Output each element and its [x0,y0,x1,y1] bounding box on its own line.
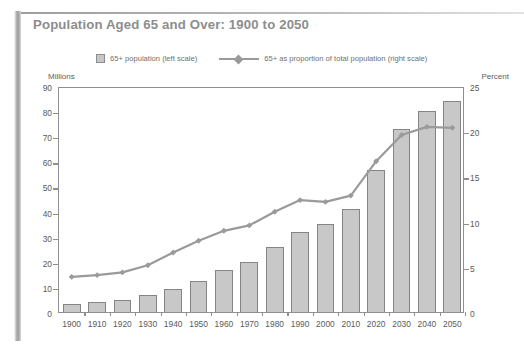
y2-axis-tick-label: 15 [470,174,479,182]
line-marker-1920 [119,269,125,275]
x-axis-tick-label: 1960 [215,319,234,329]
chart-page: Population Aged 65 and Over: 1900 to 205… [0,0,524,347]
page-gutter-shadow [14,11,21,341]
y2-axis-tick-label: 25 [470,84,479,92]
line-path [72,127,453,277]
legend-bar-label: 65+ population (left scale) [110,54,197,63]
y-axis-tick-label: 70 [43,134,52,142]
x-axis-tick-label: 1940 [164,319,183,329]
y-axis-tick-label: 90 [43,84,52,92]
plot-inner: 0102030405060708090051015202519001910192… [59,88,463,312]
x-axis-tick-label: 2050 [443,319,462,329]
legend-line-label: 65+ as proportion of total population (r… [264,54,427,63]
top-rule-divider [21,12,524,14]
x-axis-tick-label: 1910 [88,319,107,329]
line-marker-1910 [94,272,100,278]
x-axis-tick-label: 2020 [367,319,386,329]
y-axis-tick-label: 80 [43,109,52,117]
legend-bar-swatch-icon [96,54,105,63]
right-axis-caption: Percent [481,72,509,81]
line-marker-1900 [69,274,75,280]
legend-item-bar: 65+ population (left scale) [96,54,197,63]
y2-axis-tick-label: 10 [470,219,479,227]
x-axis-tick-label: 1950 [189,319,208,329]
line-marker-2000 [322,199,328,205]
line-marker-2050 [449,125,455,131]
y2-axis-tick-label: 0 [470,310,475,318]
y-axis-tick-label: 10 [43,285,52,293]
x-axis-tick-label: 2000 [316,319,335,329]
y-axis-tick-label: 20 [43,260,52,268]
x-axis-tick-label: 1980 [265,319,284,329]
x-axis-tick-label: 1920 [113,319,132,329]
page-title: Population Aged 65 and Over: 1900 to 205… [33,17,309,32]
legend-line-marker-icon [219,54,259,63]
line-marker-2040 [424,124,430,130]
x-axis-tick-label: 1970 [240,319,259,329]
line-series-overlay [59,88,465,314]
x-axis-tick-label: 1990 [291,319,310,329]
y-axis-tick-label: 40 [43,209,52,217]
y2-axis-tick-label: 5 [470,265,475,273]
legend-item-line: 65+ as proportion of total population (r… [219,54,427,63]
plot-area: 0102030405060708090051015202519001910192… [58,87,464,313]
y-axis-tick-label: 60 [43,159,52,167]
left-axis-caption: Millions [48,72,75,81]
x-axis-tick-label: 2030 [392,319,411,329]
x-axis-tick-label: 1900 [62,319,81,329]
x-axis-tick-label: 1930 [138,319,157,329]
y-axis-tick-label: 50 [43,184,52,192]
x-axis-tick-mark [465,312,466,316]
x-axis-tick-label: 2010 [341,319,360,329]
y-axis-tick-label: 0 [47,310,52,318]
line-marker-1960 [221,228,227,234]
chart-legend: 65+ population (left scale) 65+ as propo… [96,54,427,63]
y2-axis-tick-label: 20 [470,129,479,137]
y-axis-tick-label: 30 [43,234,52,242]
x-axis-tick-label: 2040 [418,319,437,329]
